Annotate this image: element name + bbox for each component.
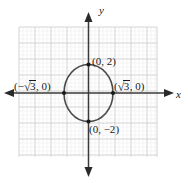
point-label-top-text: (0, 2 — [92, 55, 112, 67]
point-label-bottom-text: (0, −2 — [89, 123, 115, 135]
point-label-bottom: (0, −2) — [89, 124, 119, 135]
point-label-left: (−√3, 0) — [14, 80, 51, 92]
point-label-right: (√3, 0) — [114, 80, 144, 92]
radicand-left: 3 — [29, 80, 36, 92]
radical-right: √3 — [118, 80, 130, 92]
point-label-right-close: , 0) — [130, 80, 145, 92]
y-axis-label: y — [99, 5, 104, 16]
graph-figure: (0, 2) (0, −2) (−√3, 0) (√3, 0) y x — [0, 0, 188, 184]
point-label-left-open: (− — [14, 80, 24, 92]
radicand-right: 3 — [123, 80, 130, 92]
point-label-bottom-close: ) — [115, 123, 119, 135]
point-top — [86, 62, 90, 66]
y-axis — [85, 12, 93, 177]
point-left — [62, 91, 66, 95]
point-label-left-close: , 0) — [36, 80, 51, 92]
radical-left: √3 — [24, 80, 36, 92]
point-label-top: (0, 2) — [92, 56, 116, 67]
point-label-top-close: ) — [112, 55, 116, 67]
x-axis-label: x — [176, 89, 181, 100]
